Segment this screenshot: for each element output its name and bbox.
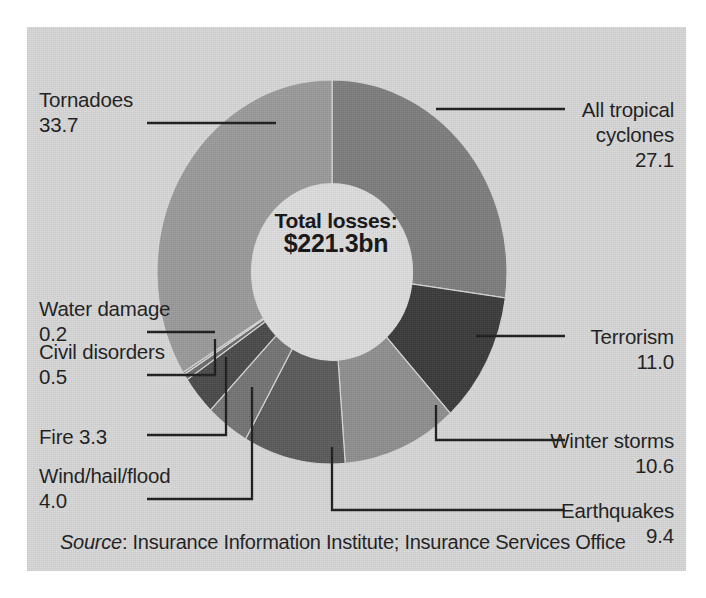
label-winter-storms-name: Winter storms (424, 428, 674, 453)
label-winter-storms-value: 10.6 (424, 453, 674, 478)
label-civil-disorders-name: Civil disorders (39, 339, 165, 364)
label-wind-hail-flood-value: 4.0 (39, 488, 67, 513)
label-civil-disorders-value: 0.5 (39, 364, 67, 389)
label-all-tropical-cyclones-name: All tropical (424, 97, 674, 122)
source-note: Source: Insurance Information Institute;… (60, 531, 626, 554)
source-text: : Insurance Information Institute; Insur… (122, 531, 626, 553)
label-tornadoes-name: Tornadoes (39, 87, 133, 112)
label-all-tropical-cyclones-name2: cyclones (424, 122, 674, 147)
label-tornadoes-value: 33.7 (39, 112, 78, 137)
label-wind-hail-flood-name: Wind/hail/flood (39, 463, 170, 488)
center-total-block: Total losses: $221.3bn (246, 210, 426, 256)
center-total-caption: Total losses: (246, 210, 426, 231)
label-water-damage-name: Water damage (39, 296, 170, 321)
label-all-tropical-cyclones-value: 27.1 (424, 147, 674, 172)
label-terrorism-value: 11.0 (424, 349, 674, 374)
label-terrorism-name: Terrorism (424, 324, 674, 349)
label-earthquakes-name: Earthquakes (424, 498, 674, 523)
source-label: Source (60, 531, 122, 553)
label-fire: Fire 3.3 (39, 424, 107, 449)
chart-figure: Total losses: $221.3bn Tornadoes 33.7 Wa… (27, 27, 686, 571)
center-total-value: $221.3bn (246, 231, 426, 256)
